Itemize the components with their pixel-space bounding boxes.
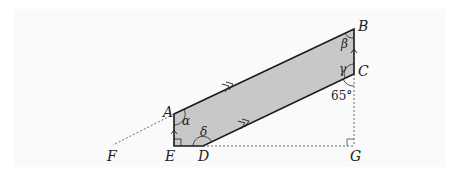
angle-label-beta: β <box>340 37 348 51</box>
angle-arc-65 <box>343 79 354 86</box>
angle-label-65: 65° <box>331 89 352 103</box>
label-g: G <box>350 148 361 164</box>
label-c: C <box>358 63 369 79</box>
label-b: B <box>357 18 368 34</box>
angle-label-alpha: α <box>182 114 190 128</box>
angle-label-gamma: γ <box>339 62 347 76</box>
label-a: A <box>161 104 173 120</box>
geometry-diagram: A B C D E F G α δ β γ 65° <box>0 0 458 175</box>
label-d: D <box>197 148 209 164</box>
right-angle-marker-g <box>347 139 354 146</box>
angle-label-delta: δ <box>200 125 207 139</box>
label-f: F <box>106 148 118 164</box>
label-e: E <box>164 148 175 164</box>
